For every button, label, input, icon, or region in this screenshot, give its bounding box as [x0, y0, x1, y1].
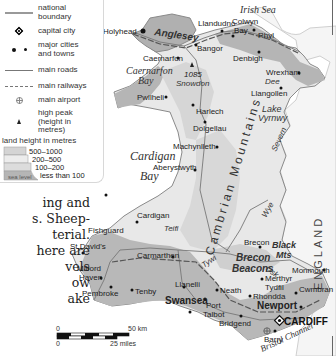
road-line-icon	[5, 70, 33, 71]
legend-major-cities: major citiesand towns	[0, 41, 104, 58]
port-talbot-label-2: Talbot	[203, 310, 225, 319]
dolgellau-label: Dolgellau	[193, 124, 226, 133]
svg-text:25 miles: 25 miles	[110, 340, 137, 347]
england-label: ENGLAND	[312, 216, 324, 290]
cardiff-label: CARDIFF	[284, 316, 328, 327]
black-mts-label-2: Mts	[276, 250, 292, 260]
caernarfon-bay-label-2: Bay	[138, 75, 154, 86]
swansea-label: Swansea	[165, 295, 208, 306]
merthyr-label-2: Tydfil	[265, 283, 284, 292]
city-dot-icon	[12, 48, 16, 52]
river-dee-label: Dee	[265, 77, 280, 86]
caernarfon-label: Caernarfon	[143, 54, 183, 63]
svg-text:0: 0	[56, 325, 60, 332]
legend-high-peak: high peak(height inmetres)	[0, 109, 104, 135]
article-body-text: ing and s. Sheep- terial. here are vels …	[0, 195, 90, 307]
legend-main-roads: main roads	[0, 66, 104, 75]
carmarthen-label: Carmarthen	[137, 251, 179, 260]
harlech-label: Harlech	[196, 107, 224, 116]
town-dot-icon	[24, 48, 27, 51]
llandudno-label: Llandudno	[198, 19, 236, 28]
rhyl-label: Rhyl	[258, 31, 274, 40]
map-legend: nationalboundary capital city major citi…	[0, 0, 104, 183]
cardigan-label: Cardigan	[137, 211, 169, 220]
page-edge-top	[332, 0, 333, 35]
land-height-title: land height in metres	[2, 137, 76, 146]
aberystwyth-label: Aberystwyth	[153, 163, 197, 172]
legend-main-railways: main railways	[0, 82, 104, 91]
pwllheli-label: Pwllheli	[137, 93, 164, 102]
airport-icon	[16, 97, 23, 104]
boundary-line-icon	[5, 12, 33, 14]
railway-line-icon	[5, 86, 33, 87]
irish-sea-label: Irish Sea	[239, 4, 276, 15]
river-teifi-label: Teifi	[164, 224, 179, 233]
bangor-label: Bangor	[197, 44, 223, 53]
high-peak-icon	[17, 119, 21, 124]
holyhead-label: Holyhead	[103, 27, 137, 36]
page-edge-bottom	[332, 336, 333, 356]
bridgend-label: Bridgend	[219, 319, 251, 328]
wrexham-label: Wrexham	[266, 68, 300, 77]
legend-main-airport: main airport	[0, 96, 104, 105]
legend-capital-city: capital city	[0, 27, 104, 36]
land-height-key: 500–1000 200–500 100–200 less than 100 s…	[0, 146, 104, 182]
llanelli-label: Llanelli	[175, 280, 200, 289]
colwyn-bay-label-2: Bay	[234, 26, 248, 35]
black-mts-label-1: Black	[272, 240, 297, 250]
denbigh-label: Denbigh	[233, 54, 263, 63]
port-talbot-label-1: Port	[206, 301, 221, 310]
svg-text:less than 100: less than 100	[40, 171, 85, 180]
legend-national-boundary: nationalboundary	[0, 4, 104, 21]
merthyr-label-1: Merthyr	[265, 274, 292, 283]
cwmbran-label: Cwmbran	[299, 285, 333, 294]
llangollen-label: Llangollen	[251, 89, 287, 98]
snowdon-label: Snowdon	[176, 79, 210, 88]
monmouth-label: Monmouth	[292, 266, 330, 275]
capital-city-icon	[15, 27, 23, 35]
svg-text:sea level: sea level	[8, 174, 32, 180]
neath-label: Neath	[220, 286, 241, 295]
airport-icon	[264, 328, 270, 334]
brecon-beacons-label-1: Brecon	[236, 252, 270, 263]
cardigan-bay-label-1: Cardigan	[130, 149, 176, 163]
lake-vyrnwy-label-2: Vyrnwy	[258, 113, 288, 123]
svg-text:50 km: 50 km	[128, 325, 147, 332]
svg-text:0: 0	[56, 340, 60, 347]
fishguard-label: Fishguard	[88, 226, 124, 235]
tenby-label: Tenby	[135, 287, 156, 296]
newport-label: Newport	[257, 300, 298, 311]
barry-label: Barry	[264, 335, 283, 344]
scale-bar: 0 50 km 0 25 miles	[56, 325, 147, 347]
machynlleth-label: Machynlleth	[173, 142, 216, 151]
brecon-label: Brecon	[244, 238, 269, 247]
colwyn-bay-label-1: Colwyn	[232, 17, 258, 26]
snowdon-height: 1085	[184, 70, 202, 79]
